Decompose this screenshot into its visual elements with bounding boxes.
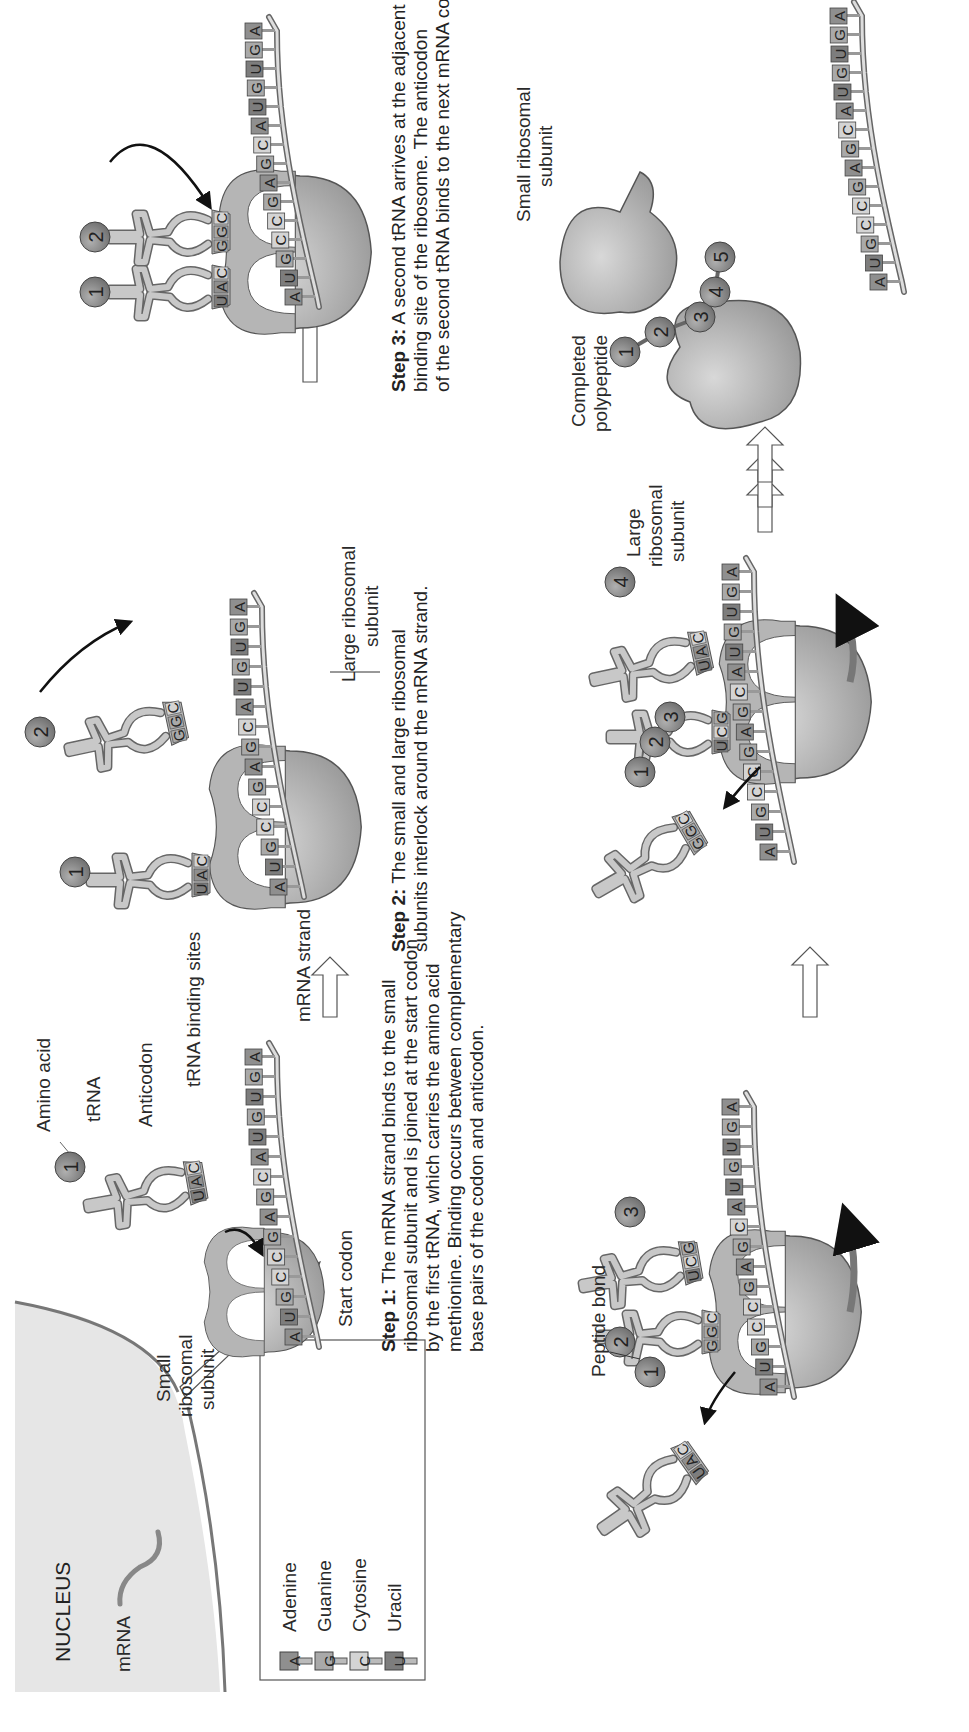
base-letter: C [268,1251,285,1262]
small-ribosomal-subunit-shape [560,172,677,313]
caption-text: A second tRNA arrives at the adjacent [388,4,409,329]
base-stem [763,790,777,793]
caption-text: The small and large ribosomal [388,629,409,888]
base-letter: G [264,1231,281,1243]
caption-step-label: Step 3: [388,329,409,392]
mrna-base: G [724,1159,754,1175]
base-stem [286,885,300,888]
mrna-base: G [849,179,879,195]
legend-name: Cytosine [349,1558,370,1632]
label-mrna-strand: mRNA strand [293,909,314,1022]
base-stem [756,750,770,753]
trna: UAC [83,1159,210,1231]
amino-acid: 3 [655,702,685,732]
legend: AAdenineGGuanineCCytosineUUracil [260,1340,425,1680]
base-stem [284,1255,298,1258]
base-stem [248,665,262,668]
step-4: AUGCCGAGCAUGUGAUACGGCUCG123Peptide bond [578,947,861,1550]
base-letter: G [246,1071,263,1083]
amino-acid: 2 [645,317,675,347]
mrna-base: U [723,604,753,620]
mrna-base: C [857,217,887,233]
amino-acid: 2 [25,717,55,747]
base-stem [738,590,752,593]
base-stem [263,1115,277,1118]
base-letter: G [248,1111,265,1123]
step-6: 12345AUGCCGAGCAUGUGACompletedpolypeptide… [513,2,904,567]
base-letter: C [853,200,870,211]
base-stem [269,805,283,808]
base-letter: G [242,741,259,753]
base-letter: A [246,1052,263,1062]
base-stem [262,67,276,70]
trna: UAC [587,1438,715,1549]
base-letter: U [234,682,251,693]
amino-acid: 3 [615,1197,645,1227]
mrna-base: U [723,1139,753,1155]
base-letter: A [723,567,740,577]
mrna-base: U [249,99,279,115]
mrna-base: A [251,118,281,134]
mrna-base: A [845,160,875,176]
base-letter: C [731,686,748,697]
base-letter: A [728,1202,745,1212]
step-5: AUGCCGAGCAUGUGAGGCUCGUAC1234 [584,427,872,913]
anticodon-letter: U [713,741,730,752]
base-stem [280,1235,294,1238]
base-stem [282,865,296,868]
amino-acid-number: 3 [620,1206,642,1217]
base-letter: G [277,253,294,265]
base-letter: U [866,258,883,269]
base-stem [262,1095,276,1098]
label-completed-polypeptide: polypeptide [590,335,611,432]
amino-acid: 1 [60,857,90,887]
label-large-subunit: Large [623,508,644,557]
base-letter: C [268,215,285,226]
caption-line: base pairs of the codon and anticodon. [466,1025,487,1352]
base-stem [258,745,272,748]
legend-name: Guanine [314,1560,335,1632]
legend-symbol: A [286,1656,303,1666]
base-stem [760,770,774,773]
base-letter: U [247,1092,264,1103]
base-letter: G [740,1281,757,1293]
amino-acid-number: 1 [85,286,107,297]
base-stem [267,124,281,127]
mrna-base: U [866,255,896,271]
step-caption-step2: Step 2: The small and large ribosomalsub… [388,586,431,952]
label-small-subunit: Small ribosomal [513,87,534,222]
base-letter: A [723,1102,740,1112]
base-stem [739,1145,753,1148]
base-letter: G [862,238,879,250]
base-letter: C [239,721,256,732]
base-stem [263,86,277,89]
base-letter: G [264,196,281,208]
base-letter: G [249,781,266,793]
base-stem [877,242,891,245]
base-letter: U [247,64,264,75]
base-stem [270,143,284,146]
base-letter: G [723,1121,740,1133]
base-letter: G [725,1161,742,1173]
mrna-base: A [870,274,900,290]
anticodon-letter: U [213,296,230,307]
label-amino-acid: Amino acid [33,1038,54,1132]
amino-acid-number: 3 [690,311,712,322]
base-stem [250,685,264,688]
base-stem [273,1195,287,1198]
amino-acid-number: 3 [660,711,682,722]
mrna-base: G [245,1069,275,1085]
base-stem [273,162,287,165]
base-letter: G [723,586,740,598]
base-letter: G [752,806,769,818]
mrna-base: G [752,804,782,820]
label-small-subunit: subunit [197,1348,218,1410]
base-letter: A [246,762,263,772]
label-large-subunit: Large ribosomal [338,546,359,682]
amino-acid-number: 1 [60,1161,82,1172]
mrna-base: A [728,1199,758,1215]
base-stem [760,1305,774,1308]
base-stem [846,33,860,36]
base-letter: A [737,727,754,737]
base-stem [749,710,763,713]
